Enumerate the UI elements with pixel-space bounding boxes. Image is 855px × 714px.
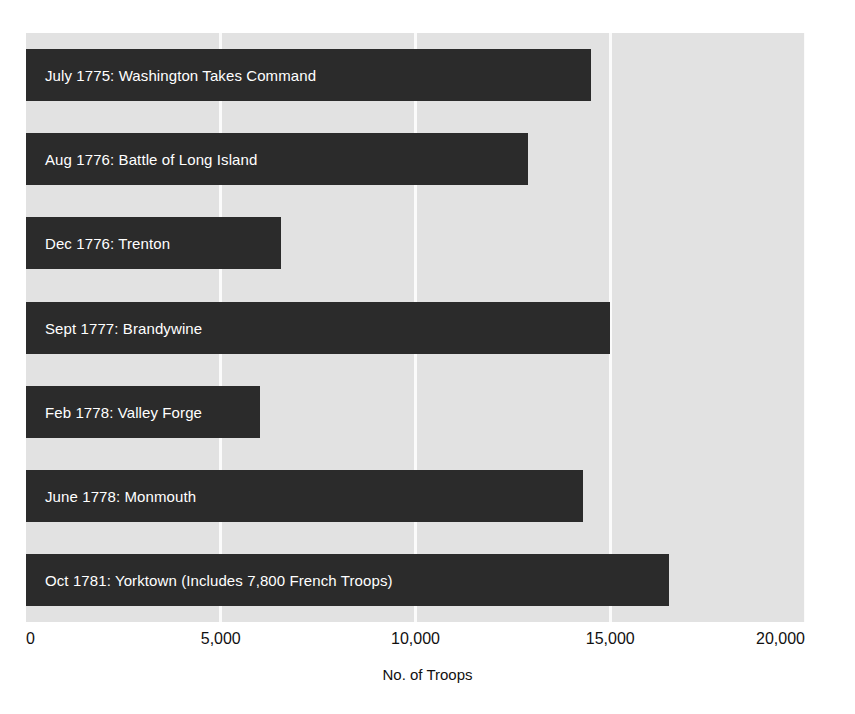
bar-label: June 1778: Monmouth — [45, 488, 196, 503]
bar-row: Sept 1777: Brandywine — [26, 302, 805, 354]
bar[interactable]: Sept 1777: Brandywine — [26, 302, 610, 354]
bar-row: Oct 1781: Yorktown (Includes 7,800 Frenc… — [26, 554, 805, 606]
bar[interactable]: Feb 1778: Valley Forge — [26, 386, 260, 438]
x-axis-title: No. of Troops — [0, 666, 855, 683]
bar-label: Feb 1778: Valley Forge — [45, 404, 202, 419]
bar[interactable]: July 1775: Washington Takes Command — [26, 49, 591, 101]
x-axis: 05,00010,00015,00020,000 — [0, 622, 855, 662]
bar-label: Aug 1776: Battle of Long Island — [45, 152, 257, 167]
x-tick-label: 5,000 — [201, 630, 241, 648]
bar-label: Dec 1776: Trenton — [45, 236, 170, 251]
bar-row: July 1775: Washington Takes Command — [26, 49, 805, 101]
bar[interactable]: June 1778: Monmouth — [26, 470, 583, 522]
bar[interactable]: Aug 1776: Battle of Long Island — [26, 133, 528, 185]
bar-label: Oct 1781: Yorktown (Includes 7,800 Frenc… — [45, 572, 393, 587]
bar[interactable]: Dec 1776: Trenton — [26, 217, 281, 269]
bars: July 1775: Washington Takes CommandAug 1… — [26, 33, 805, 622]
x-tick-label: 15,000 — [586, 630, 635, 648]
bar-row: Feb 1778: Valley Forge — [26, 386, 805, 438]
bar-row: Dec 1776: Trenton — [26, 217, 805, 269]
x-tick-label: 0 — [26, 630, 35, 648]
plot-area: July 1775: Washington Takes CommandAug 1… — [26, 33, 805, 622]
bar-label: Sept 1777: Brandywine — [45, 320, 202, 335]
bar-row: Aug 1776: Battle of Long Island — [26, 133, 805, 185]
bar-label: July 1775: Washington Takes Command — [45, 68, 316, 83]
bar[interactable]: Oct 1781: Yorktown (Includes 7,800 Frenc… — [26, 554, 669, 606]
x-tick-label: 10,000 — [391, 630, 440, 648]
x-tick-label: 20,000 — [756, 630, 805, 648]
bar-row: June 1778: Monmouth — [26, 470, 805, 522]
bar-chart: July 1775: Washington Takes CommandAug 1… — [0, 0, 855, 714]
